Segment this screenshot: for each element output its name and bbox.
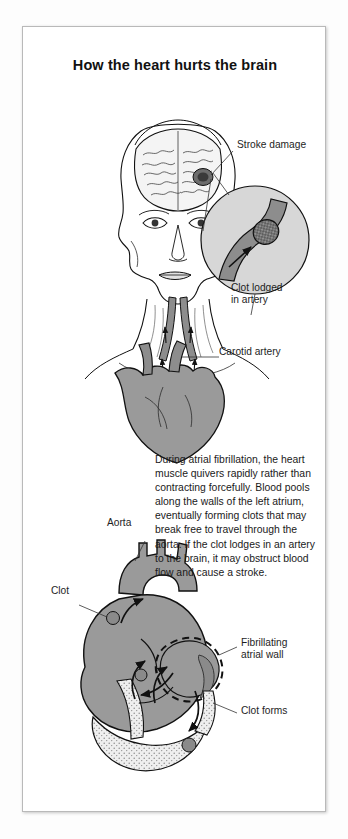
label-clot: Clot	[51, 585, 69, 597]
figure-page: How the heart hurts the brain	[0, 0, 348, 839]
body-paragraph: During atrial fibrillation, the heart mu…	[155, 453, 325, 580]
label-aorta: Aorta	[107, 517, 131, 529]
artery-magnifier-inset	[201, 186, 309, 294]
label-fibrillating-atrial-wall: Fibrillating atrial wall	[241, 637, 287, 662]
label-clot-lodged-in-artery: Clot lodged in artery	[231, 282, 283, 307]
label-stroke-damage: Stroke damage	[237, 139, 306, 151]
upper-heart-illustration	[115, 341, 224, 463]
label-carotid-artery: Carotid artery	[219, 346, 281, 358]
figure-frame: How the heart hurts the brain	[22, 26, 326, 812]
label-clot-forms: Clot forms	[241, 705, 287, 717]
